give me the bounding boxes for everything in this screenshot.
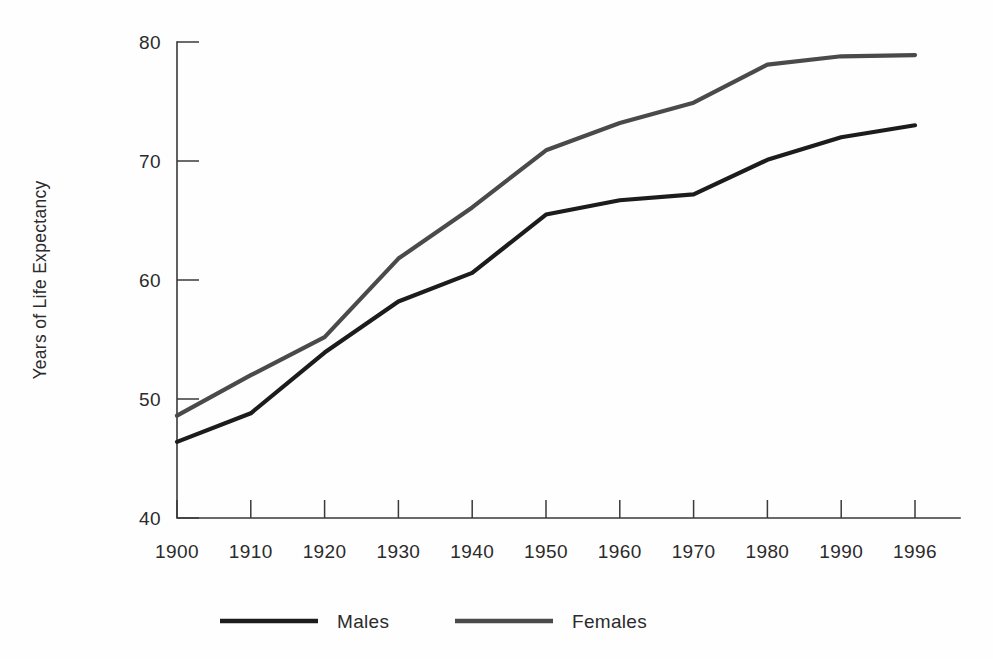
y-tick-label: 50 xyxy=(139,389,161,410)
x-tick-label: 1950 xyxy=(524,541,568,562)
series-line-females xyxy=(177,55,915,416)
axis-lines xyxy=(177,42,960,518)
y-tick-label: 80 xyxy=(139,32,161,53)
y-tick-label: 70 xyxy=(139,151,161,172)
y-tick-label: 60 xyxy=(139,270,161,291)
x-tick-label: 1960 xyxy=(598,541,642,562)
x-tick-label: 1990 xyxy=(819,541,863,562)
chart-canvas: 4050607080 19001910192019301940195019601… xyxy=(0,0,993,659)
x-tick-label: 1996 xyxy=(893,541,937,562)
y-axis-title: Years of Life Expectancy xyxy=(30,180,50,379)
y-tick-label: 40 xyxy=(139,508,161,529)
series-line-males xyxy=(177,125,915,442)
x-tick-label: 1930 xyxy=(376,541,420,562)
x-tick-label: 1910 xyxy=(229,541,273,562)
legend-label-females: Females xyxy=(572,611,647,632)
x-tick-label: 1920 xyxy=(303,541,347,562)
axis-group xyxy=(177,42,960,518)
life-expectancy-chart: 4050607080 19001910192019301940195019601… xyxy=(0,0,993,659)
legend-label-males: Males xyxy=(337,611,389,632)
chart-legend: MalesFemales xyxy=(220,611,647,632)
x-tick-label: 1980 xyxy=(745,541,789,562)
x-axis-ticks: 1900191019201930194019501960197019801990… xyxy=(155,500,937,562)
x-tick-label: 1940 xyxy=(450,541,494,562)
x-tick-label: 1900 xyxy=(155,541,199,562)
x-tick-label: 1970 xyxy=(672,541,716,562)
data-series-group xyxy=(177,55,915,442)
y-axis-ticks: 4050607080 xyxy=(139,32,199,529)
